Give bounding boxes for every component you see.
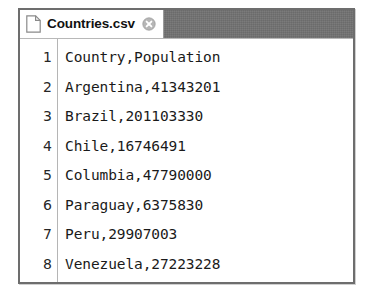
line-number: 5 bbox=[20, 161, 57, 191]
line-number: 3 bbox=[20, 102, 57, 132]
code-line[interactable]: Chile,16746491 bbox=[65, 132, 353, 162]
screen: Countries.csv 1 2 3 4 5 6 7 8 bbox=[0, 0, 382, 296]
line-number: 1 bbox=[20, 43, 57, 73]
close-circle-icon[interactable] bbox=[142, 17, 156, 31]
tab-title: Countries.csv bbox=[47, 17, 135, 31]
tab-countries-csv[interactable]: Countries.csv bbox=[20, 10, 164, 38]
tab-bar-empty-area[interactable] bbox=[164, 10, 353, 38]
code-content[interactable]: Country,Population Argentina,41343201 Br… bbox=[58, 39, 353, 282]
text-editor-window: Countries.csv 1 2 3 4 5 6 7 8 bbox=[18, 8, 355, 284]
line-number: 7 bbox=[20, 220, 57, 250]
code-line[interactable]: Venezuela,27223228 bbox=[65, 250, 353, 280]
line-number: 4 bbox=[20, 132, 57, 162]
code-line[interactable]: Columbia,47790000 bbox=[65, 161, 353, 191]
code-line[interactable]: Peru,29907003 bbox=[65, 220, 353, 250]
document-icon bbox=[26, 15, 41, 33]
code-line[interactable]: Country,Population bbox=[65, 43, 353, 73]
line-number: 6 bbox=[20, 191, 57, 221]
code-line[interactable]: Argentina,41343201 bbox=[65, 73, 353, 103]
line-number: 2 bbox=[20, 73, 57, 103]
code-line[interactable]: Paraguay,6375830 bbox=[65, 191, 353, 221]
tab-bar: Countries.csv bbox=[20, 10, 353, 39]
line-number-gutter: 1 2 3 4 5 6 7 8 bbox=[20, 39, 58, 282]
editor-area: 1 2 3 4 5 6 7 8 Country,Population Argen… bbox=[20, 39, 353, 282]
code-line[interactable]: Brazil,201103330 bbox=[65, 102, 353, 132]
line-number: 8 bbox=[20, 250, 57, 280]
